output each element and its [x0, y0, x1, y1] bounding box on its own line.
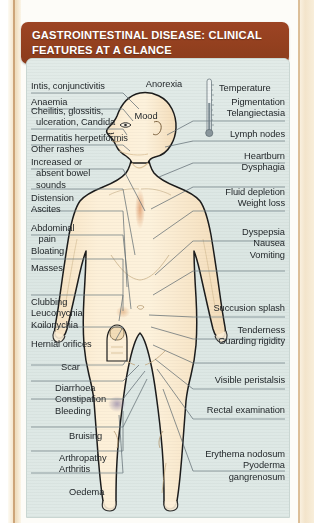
label-anorexia: Anorexia — [127, 79, 201, 90]
page-edge-line — [298, 0, 300, 523]
label-lymph-nodes: Lymph nodes — [177, 129, 285, 140]
label-tenderness: Tenderness Guarding rigidity — [177, 325, 285, 348]
page-title: GASTROINTESTINAL DISEASE: CLINICAL FEATU… — [32, 28, 281, 57]
label-succussion-splash: Succusion splash — [177, 303, 285, 314]
label-mood: Mood — [123, 111, 169, 122]
label-dermatitis: Dermatitis herpetiformis Other rashes — [31, 133, 128, 156]
label-dyspepsia: Dyspepsia Nausea Vomiting — [177, 227, 285, 261]
page-edge-right — [298, 0, 314, 523]
label-rectal-examination: Rectal examination — [177, 405, 285, 416]
label-bruising: Bruising — [69, 431, 102, 442]
label-iritis: Intis, conjunctivitis — [31, 81, 105, 92]
label-cheilitis: Cheilitis, glossitis, ulceration, Candid… — [31, 106, 115, 129]
scanned-page: GASTROINTESTINAL DISEASE: CLINICAL FEATU… — [0, 0, 332, 523]
label-visible-peristalsis: Visible peristalsis — [177, 375, 285, 386]
label-oedema: Oedema — [69, 487, 104, 498]
clubbed-finger-inset — [107, 325, 127, 361]
label-heartburn: Heartburn Dysphagia — [177, 151, 285, 174]
diagram-panel: Anorexia Mood Temperature Intis, conjunc… — [26, 58, 290, 518]
label-diarrhoea: Diarrhoea Constipation Bleeding — [55, 383, 106, 417]
label-arthropathy: Arthropathy Arthritis — [59, 453, 107, 476]
label-hernial-orifices: Hernial orifices — [31, 339, 92, 350]
label-masses: Masses — [31, 263, 63, 274]
page-spine-line — [13, 0, 15, 523]
label-distension: Distension Ascites — [31, 193, 74, 216]
label-fluid-depletion: Fluid depletion Weight loss — [177, 187, 285, 210]
label-scar: Scar — [61, 362, 80, 373]
label-erythema-nodosum: Erythema nodosum Pyoderma gangrenosum — [177, 449, 285, 483]
page-edge-left — [8, 0, 21, 523]
label-bowel-sounds: Increased or absent bowel sounds — [31, 157, 90, 191]
label-abdominal-pain: Abdominal pain Bloating — [31, 223, 74, 257]
page-margin-left — [0, 0, 8, 523]
page-margin-right — [314, 0, 332, 523]
label-temperature: Temperature — [219, 83, 271, 94]
label-clubbing: Clubbing Leuconychia Koilonychia — [31, 297, 83, 331]
label-pigmentation: Pigmentation Telangiectasia — [177, 97, 285, 120]
